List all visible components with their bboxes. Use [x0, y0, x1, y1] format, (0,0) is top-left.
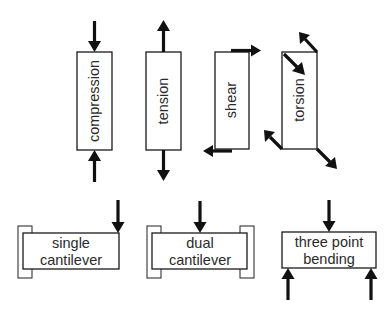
torsion-label: torsion	[291, 78, 307, 122]
three-point-bending-label-line1: three point	[295, 234, 364, 250]
arrow-up-left-icon	[264, 130, 282, 149]
single-cantilever-setup: single cantilever	[18, 200, 125, 278]
arrow-down-right-icon	[317, 149, 337, 169]
arrow-up-icon	[282, 268, 295, 300]
arrow-down-icon	[88, 21, 101, 52]
compression-label: compression	[86, 60, 102, 142]
torsion-specimen: torsion	[264, 32, 337, 169]
three-point-bending-label-line2: bending	[303, 251, 355, 267]
compression-specimen: compression	[77, 21, 112, 182]
arrow-down-icon	[112, 200, 125, 233]
arrow-up-icon	[365, 268, 378, 300]
dual-cantilever-label-line1: dual	[186, 235, 213, 251]
loading-modes-diagram: compression tension shear	[0, 0, 391, 312]
arrow-up-left-icon	[299, 32, 317, 52]
three-point-bending-setup: three point bending	[282, 200, 378, 300]
dual-cantilever-setup: dual cantilever	[147, 201, 254, 278]
dual-cantilever-label-line2: cantilever	[169, 252, 231, 268]
arrow-up-icon	[88, 150, 101, 182]
single-cantilever-label-line1: single	[52, 235, 90, 251]
shear-label: shear	[223, 82, 239, 118]
arrow-up-icon	[157, 20, 170, 52]
arrow-down-icon	[157, 150, 170, 181]
arrow-down-icon	[194, 201, 207, 233]
tension-specimen: tension	[146, 20, 181, 181]
shear-specimen: shear	[203, 45, 261, 158]
single-cantilever-label-line2: cantilever	[40, 252, 102, 268]
tension-label: tension	[155, 78, 171, 125]
arrow-down-icon	[323, 200, 336, 232]
